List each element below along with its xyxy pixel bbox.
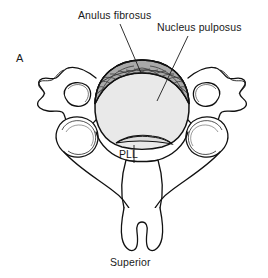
left-transverse-foramen (64, 83, 90, 107)
panel-label-a: A (16, 52, 23, 64)
label-superior-orientation: Superior (110, 256, 151, 268)
label-anulus-fibrosus: Anulus fibrosus (78, 9, 151, 21)
right-superior-articular-facet (186, 117, 228, 157)
vertebra-illustration (0, 0, 268, 278)
left-superior-articular-facet (56, 117, 98, 157)
label-pll: PLL (119, 148, 138, 160)
bifid-spinous-process (121, 208, 163, 251)
right-transverse-foramen (193, 83, 219, 107)
figure-canvas: Anulus fibrosus Nucleus pulposus PLL Sup… (0, 0, 268, 278)
label-nucleus-pulposus: Nucleus pulposus (157, 21, 241, 33)
